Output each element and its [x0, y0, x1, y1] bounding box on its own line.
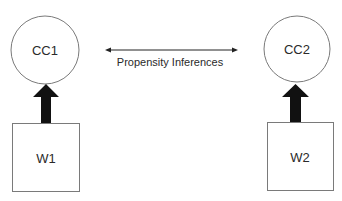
node-w2: W2	[268, 123, 334, 191]
node-w1: W1	[13, 124, 80, 192]
edge-label-propensity-inferences: Propensity Inferences	[117, 56, 224, 68]
node-cc1: CC1	[11, 16, 79, 84]
diagram-canvas: CC1 CC2 W1 W2 Propensity Inferences	[0, 0, 342, 201]
arrow-w1-to-cc1-icon	[33, 84, 59, 123]
arrow-w2-to-cc2-icon	[282, 84, 309, 122]
node-cc2-label: CC2	[284, 42, 310, 57]
double-arrow-propensity	[105, 48, 238, 53]
node-w1-label: W1	[36, 151, 56, 166]
node-cc1-label: CC1	[32, 43, 58, 58]
node-cc2: CC2	[264, 16, 330, 82]
node-w2-label: W2	[290, 150, 310, 165]
